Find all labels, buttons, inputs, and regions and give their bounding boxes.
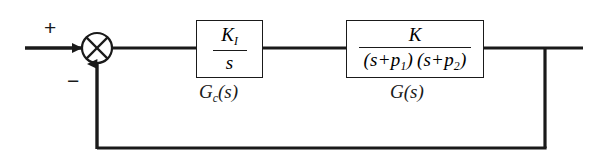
controller-transfer-function: KI s [213, 25, 247, 73]
controller-numerator: KI [216, 25, 243, 49]
plant-transfer-function: K (s+p1)(s+p2) [359, 25, 472, 73]
controller-denominator: s [221, 52, 238, 73]
controller-numerator-subscript: I [234, 35, 238, 48]
controller-fraction-bar [213, 50, 247, 52]
controller-block-label: Gc(s) [199, 81, 238, 106]
feedback-minus-sign: − [67, 70, 79, 91]
plant-block-label: G(s) [390, 81, 424, 103]
block-diagram: + − KI s Gc(s) K (s+p1)(s+p2) G(s) [0, 0, 600, 162]
diagram-wiring [0, 0, 600, 162]
plant-denominator: (s+p1)(s+p2) [359, 49, 472, 73]
input-plus-sign: + [44, 17, 56, 38]
plant-numerator: K [404, 25, 427, 46]
controller-block[interactable]: KI s [196, 20, 263, 78]
plant-fraction-bar [359, 47, 472, 49]
plant-block[interactable]: K (s+p1)(s+p2) [346, 20, 484, 78]
